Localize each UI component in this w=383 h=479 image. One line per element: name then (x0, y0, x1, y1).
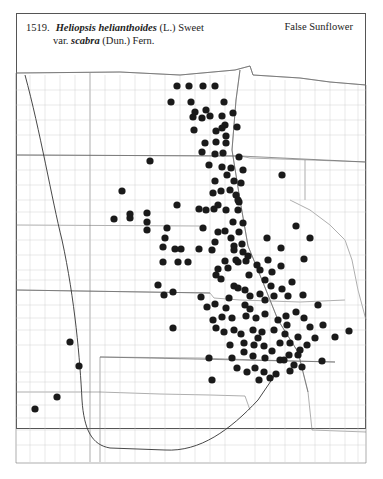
occurrence-dot (306, 323, 313, 330)
occurrence-dot (233, 364, 240, 371)
occurrence-dot (126, 210, 133, 217)
author: (L.) Sweet (159, 22, 203, 33)
variety-author: (Dun.) Fern. (102, 35, 154, 46)
occurrence-dot (201, 139, 208, 146)
occurrence-dot (208, 376, 215, 383)
occurrence-dot (311, 334, 318, 341)
occurrence-dot (195, 205, 202, 212)
occurrence-dot (303, 341, 310, 348)
occurrence-dot (243, 368, 250, 375)
occurrence-dot (202, 206, 209, 213)
occurrence-dot (268, 347, 275, 354)
occurrence-dot (118, 187, 125, 194)
occurrence-dot (268, 268, 275, 275)
occurrence-dot (239, 166, 246, 173)
occurrence-dot (294, 351, 301, 358)
occurrence-dot (229, 109, 236, 116)
occurrence-dot (160, 291, 167, 298)
occurrence-dot (230, 177, 237, 184)
occurrence-dot (221, 257, 228, 264)
occurrence-dot (251, 364, 258, 371)
occurrence-dot (261, 310, 268, 317)
occurrence-dot (274, 316, 281, 323)
occurrence-dot (222, 139, 229, 146)
occurrence-dot (284, 292, 291, 299)
occurrence-dot (270, 326, 277, 333)
occurrence-dot (211, 82, 218, 89)
occurrence-dot (222, 304, 229, 311)
occurrence-dot (212, 324, 219, 331)
occurrence-dot (212, 138, 219, 145)
occurrence-dot (244, 252, 251, 259)
occurrence-dot (280, 356, 287, 363)
occurrence-dot (300, 255, 307, 262)
occurrence-dot (235, 228, 242, 235)
species-name: Heliopsis helianthoides (56, 22, 157, 33)
occurrence-dot (209, 316, 216, 323)
occurrence-dot (290, 361, 297, 368)
occurrence-dot (218, 124, 225, 131)
occurrence-dot (249, 352, 256, 359)
occurrence-dot (281, 330, 288, 337)
occurrence-dot (314, 301, 321, 308)
occurrence-dot (220, 98, 227, 105)
occurrence-dot (263, 234, 270, 241)
occurrence-dot (167, 98, 174, 105)
occurrence-dot (169, 324, 176, 331)
occurrence-dot (225, 294, 232, 301)
occurrence-dot (220, 328, 227, 335)
var-label: var. (53, 35, 68, 46)
occurrence-dot (224, 264, 231, 271)
occurrence-dot (218, 163, 225, 170)
occurrence-dot (198, 148, 205, 155)
occurrence-dot (217, 187, 224, 194)
occurrence-dot (240, 348, 247, 355)
occurrence-dot (199, 224, 206, 231)
occurrence-dot (261, 296, 268, 303)
occurrence-dot (272, 370, 279, 377)
occurrence-dot (75, 362, 82, 369)
occurrence-dot (228, 354, 235, 361)
occurrence-dot (174, 258, 181, 265)
occurrence-dot (237, 179, 244, 186)
occurrence-dot (318, 357, 325, 364)
occurrence-dot (190, 126, 197, 133)
occurrence-dot (53, 393, 60, 400)
occurrence-dot (189, 113, 196, 120)
occurrence-dot (221, 227, 228, 234)
occurrence-dot (173, 201, 180, 208)
occurrence-dot (292, 308, 299, 315)
occurrence-dot (143, 226, 150, 233)
occurrence-dot (240, 339, 247, 346)
occurrence-dot (211, 177, 218, 184)
occurrence-dot (241, 286, 248, 293)
occurrence-dot (282, 312, 289, 319)
occurrence-dot (206, 112, 213, 119)
occurrence-dot (198, 114, 205, 121)
occurrence-dot (184, 258, 191, 265)
occurrence-dot (234, 196, 241, 203)
occurrence-dot (222, 132, 229, 139)
occurrence-dot (299, 291, 306, 298)
occurrence-dot (286, 339, 293, 346)
occurrence-dot (306, 234, 313, 241)
occurrence-dot (277, 244, 284, 251)
occurrence-dot (270, 292, 277, 299)
occurrence-dot (286, 367, 293, 374)
occurrence-dot (211, 150, 218, 157)
occurrence-dot (199, 82, 206, 89)
county-grid (16, 75, 366, 462)
occurrence-dot (319, 321, 326, 328)
occurrence-dot (261, 354, 268, 361)
occurrence-dot (218, 112, 225, 119)
occurrence-dot (238, 240, 245, 247)
species-number: 1519. (26, 22, 50, 33)
occurrence-dot (66, 338, 73, 345)
occurrence-dot (209, 189, 216, 196)
occurrence-dot (277, 262, 284, 269)
occurrence-dot (246, 305, 253, 312)
occurrence-dot (278, 171, 285, 178)
variety-name: scabra (71, 35, 100, 46)
occurrence-dot (226, 186, 233, 193)
occurrence-dot (298, 363, 305, 370)
